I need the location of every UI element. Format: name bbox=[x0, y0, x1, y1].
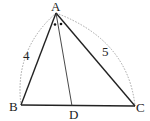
side-length-ac: 5 bbox=[102, 44, 109, 59]
label-d: D bbox=[69, 107, 78, 121]
side-length-ab: 4 bbox=[23, 48, 30, 63]
bisector-ad bbox=[56, 13, 72, 106]
side-ac bbox=[56, 13, 135, 106]
triangle-diagram: A B C D 4 5 bbox=[0, 0, 150, 121]
angle-mark-dot-left bbox=[54, 23, 57, 26]
side-bc bbox=[21, 105, 135, 106]
label-a: A bbox=[51, 0, 61, 14]
label-b: B bbox=[9, 99, 18, 114]
diagram-canvas: A B C D 4 5 bbox=[0, 0, 150, 121]
angle-mark-dot-right bbox=[60, 23, 63, 26]
label-c: C bbox=[136, 100, 145, 115]
